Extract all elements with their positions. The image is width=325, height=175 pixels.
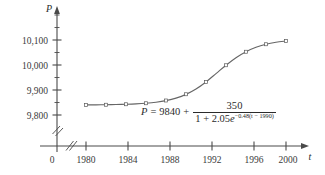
y-tick-label-9900: 9,900 (27, 86, 49, 96)
data-point-marker (205, 81, 208, 84)
data-point-marker (105, 103, 108, 106)
x-tick-label-1984: 1984 (119, 155, 138, 165)
equation-denominator: 1 + 2.05e−0.48(t − 1990) (193, 113, 276, 125)
data-point-marker (185, 93, 188, 96)
equation-annotation: P = 9840 + 350 1 + 2.05e−0.48(t − 1990) (141, 101, 277, 124)
data-point-marker (225, 64, 228, 67)
data-point-marker (125, 103, 128, 106)
x-axis-label: t (309, 151, 312, 162)
x-tick-label-1996: 1996 (245, 155, 264, 165)
equation-constant: 9840 (159, 107, 180, 118)
data-point-marker (85, 104, 88, 107)
y-axis-break-mark (53, 126, 64, 136)
y-tick-label-9800: 9,800 (27, 111, 49, 121)
y-tick-label-10100: 10,100 (22, 36, 48, 46)
plot-canvas: 10,100 10,000 9,900 9,800 P 0 1980 1984 … (0, 0, 325, 175)
data-point-marker (285, 40, 288, 43)
exponent: −0.48(t − 1990) (235, 112, 274, 119)
y-axis-label: P (45, 3, 52, 14)
data-point-marker (265, 43, 268, 46)
origin-label: 0 (50, 155, 55, 165)
denominator-lead: 1 + 2.05 (195, 113, 230, 124)
data-point-group (85, 40, 288, 107)
x-tick-label-1988: 1988 (161, 155, 180, 165)
x-tick-label-1992: 1992 (203, 155, 222, 165)
equation-plus: + (183, 107, 189, 118)
equation-fraction: 350 1 + 2.05e−0.48(t − 1990) (193, 101, 276, 124)
y-tick-label-10000: 10,000 (22, 61, 48, 71)
x-tick-label-1980: 1980 (77, 155, 96, 165)
x-tick-label-2000: 2000 (279, 155, 298, 165)
equation-numerator: 350 (222, 101, 246, 112)
logistic-growth-figure: 10,100 10,000 9,900 9,800 P 0 1980 1984 … (0, 0, 325, 175)
equation-equals: = (150, 107, 156, 118)
data-point-marker (245, 50, 248, 53)
equation-lhs: P (141, 107, 147, 118)
exponent-text: −0.48(t − 1990) (235, 112, 274, 119)
x-axis (40, 143, 309, 149)
